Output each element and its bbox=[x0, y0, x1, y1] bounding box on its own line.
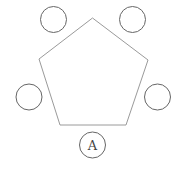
seating-diagram: A bbox=[0, 0, 179, 173]
seat-label-bottom: A bbox=[87, 138, 98, 153]
seat-circle-left bbox=[16, 84, 42, 110]
seat-circle-top-right bbox=[120, 7, 146, 33]
seat-circle-top-left bbox=[41, 7, 67, 33]
seat-circle-right bbox=[145, 84, 171, 110]
seats-group: A bbox=[16, 7, 171, 159]
pentagon-table bbox=[39, 18, 148, 125]
